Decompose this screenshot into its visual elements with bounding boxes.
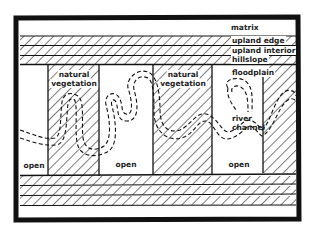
label-river: river — [232, 114, 252, 123]
band-upland-edge-bottom — [20, 196, 296, 205]
label-channel: channel — [232, 123, 265, 132]
label-open-1: open — [24, 161, 45, 170]
label-floodplain: floodplain — [231, 68, 275, 77]
label-natural-vegetation-2-line1: natural — [167, 70, 200, 79]
label-matrix: matrix — [231, 23, 259, 32]
label-natural-vegetation-1-line2: vegetation — [50, 79, 98, 88]
label-upland-edge: upland edge — [231, 36, 286, 45]
label-open-2: open — [116, 160, 137, 169]
label-open-3: open — [229, 160, 250, 169]
label-natural-vegetation-1-line1: natural — [58, 70, 91, 79]
label-hillslope: hillslope — [231, 55, 269, 64]
label-natural-vegetation-2-line2: vegetation — [159, 79, 207, 88]
label-upland-interior: upland interior — [231, 46, 296, 55]
patch-natural-vegetation-3 — [263, 65, 296, 173]
